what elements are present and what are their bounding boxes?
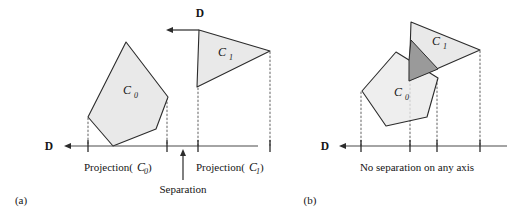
projection-c0-prefix: Projection( xyxy=(84,161,133,174)
separation-arrow-head xyxy=(180,149,186,156)
polygon-c0-label-text: C xyxy=(123,83,132,97)
polygon-c1-label-sub: 1 xyxy=(229,53,233,62)
polygon-c0-label-sub: 0 xyxy=(134,91,138,100)
panel-label-b: (b) xyxy=(304,194,317,207)
polygon-c1-label-text: C xyxy=(432,34,441,48)
projection-c0-label: Projection( C 0 ) xyxy=(84,160,152,176)
direction-label-top: D xyxy=(196,7,204,19)
polygon-c1 xyxy=(197,30,270,87)
axis-arrow-head-a xyxy=(64,143,71,149)
axis-arrow-head-b xyxy=(339,143,346,149)
direction-label-axis-b: D xyxy=(321,140,329,152)
figure-root: C 0 C 1 D D xyxy=(0,0,516,224)
polygon-c0-label-sub: 0 xyxy=(405,93,409,102)
axis-arrow-a xyxy=(64,143,71,149)
separation-arrow xyxy=(180,149,186,180)
panel-b: C 1 C 0 D No separation on any axis (b) xyxy=(304,22,507,207)
direction-label-axis-a: D xyxy=(45,140,53,152)
no-separation-label: No separation on any axis xyxy=(360,161,474,173)
projection-c1-prefix: Projection( xyxy=(196,161,245,174)
projection-c0-suffix: ) xyxy=(148,161,152,174)
panel-a: C 0 C 1 D D xyxy=(15,7,270,207)
projection-c1-label: Projection( C 1 ) xyxy=(196,160,264,176)
separating-axis-figure: C 0 C 1 D D xyxy=(0,0,516,224)
polygon-c1-label-sub: 1 xyxy=(443,42,447,51)
separation-label: Separation xyxy=(159,183,207,195)
polygon-c1-label-text: C xyxy=(218,45,227,59)
direction-arrow-top xyxy=(166,27,199,33)
direction-arrow-top-head xyxy=(166,27,173,33)
polygon-c0-label-text: C xyxy=(394,85,403,99)
projection-c1-suffix: ) xyxy=(260,161,264,174)
panel-label-a: (a) xyxy=(15,194,28,207)
